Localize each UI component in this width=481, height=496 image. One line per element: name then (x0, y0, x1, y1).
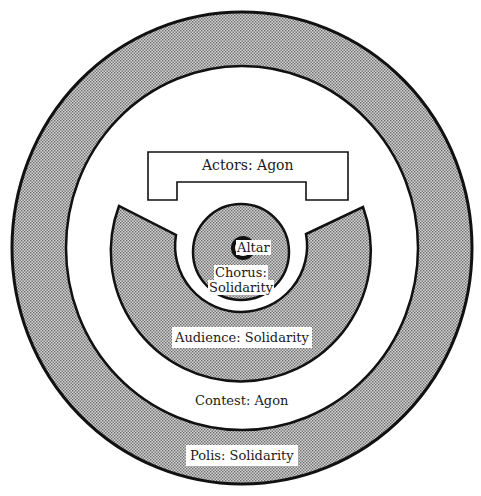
actors-label: Actors: Agon (200, 157, 296, 174)
polis-label: Polis: Solidarity (186, 445, 298, 466)
audience-label: Audience: Solidarity (172, 327, 312, 348)
altar-label: Altar (236, 240, 271, 255)
contest-label: Contest: Agon (193, 392, 290, 409)
chorus-label-line1: Chorus: (214, 265, 268, 280)
chorus-label-line2: Solidarity (208, 280, 274, 295)
